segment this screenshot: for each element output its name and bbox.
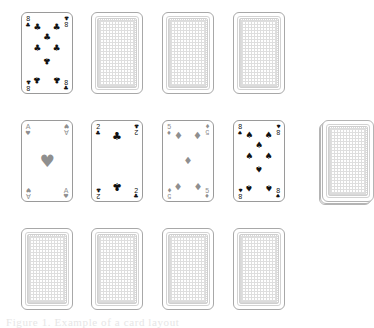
card-pip-clubs: ♣: [53, 75, 61, 84]
draw-deck[interactable]: [322, 120, 374, 202]
card-row-2-slot-3-faceup[interactable]: 5♦5♦5♦5♦♦♦♦♦♦: [162, 120, 214, 202]
card-pip-spades: ♠: [245, 130, 253, 139]
card-pip-diamonds: ♦: [193, 131, 202, 141]
card-pip-spades: ♠: [255, 163, 263, 172]
card-row-3-slot-2-facedown[interactable]: [91, 228, 143, 310]
card-pip-diamonds: ♦: [174, 131, 183, 141]
card-face: 8♠8♠8♠8♠♠♠♠♠♠♠♠♠: [234, 121, 284, 201]
card-back-pattern: [170, 20, 206, 86]
card-pip-clubs: ♣: [33, 75, 41, 84]
card-pip-spades: ♠: [245, 151, 253, 160]
card-pip-area: ♣♣♣♣♣♣♣♣: [31, 20, 63, 86]
card-pip-diamonds: ♦: [184, 156, 193, 166]
card-row-2-slot-4-faceup[interactable]: 8♠8♠8♠8♠♠♠♠♠♠♠♠♠: [233, 120, 285, 202]
card-face: 5♦5♦5♦5♦♦♦♦♦♦: [163, 121, 213, 201]
card-pip-spades: ♠: [265, 151, 273, 160]
deck-layer: [322, 120, 374, 202]
card-row-1-slot-2-facedown[interactable]: [91, 12, 143, 94]
card-pip-clubs: ♣: [43, 33, 51, 42]
card-pip-spades: ♠: [265, 183, 273, 192]
card-row-2-slot-2-faceup[interactable]: 2♣2♣2♣2♣♣♣: [91, 120, 143, 202]
card-row-1-slot-3-facedown[interactable]: [162, 12, 214, 94]
card-back-pattern: [99, 236, 135, 302]
card-back-pattern: [99, 20, 135, 86]
card-row-3-slot-4-facedown[interactable]: [233, 228, 285, 310]
card-row-3-slot-1-facedown[interactable]: [21, 228, 73, 310]
figure-caption: Figure 1. Example of a card layout: [6, 316, 306, 328]
card-pip-clubs: ♣: [43, 55, 51, 64]
card-pip-area: ♥: [31, 128, 63, 194]
card-pip-spades: ♠: [255, 141, 263, 150]
card-row-1-slot-4-facedown[interactable]: [233, 12, 285, 94]
card-face: 8♣8♣8♣8♣♣♣♣♣♣♣♣♣: [22, 13, 72, 93]
card-pip-spades: ♠: [245, 183, 253, 192]
card-pip-area: ♦♦♦♦♦: [172, 128, 204, 194]
card-row-1-slot-1-faceup[interactable]: 8♣8♣8♣8♣♣♣♣♣♣♣♣♣: [21, 12, 73, 94]
card-pip-clubs: ♣: [33, 22, 41, 31]
card-pip-clubs: ♣: [53, 43, 61, 52]
card-pip-area: ♠♠♠♠♠♠♠♠: [243, 128, 275, 194]
card-face: 2♣2♣2♣2♣♣♣: [92, 121, 142, 201]
card-pip-clubs: ♣: [33, 43, 41, 52]
card-pip-clubs: ♣: [53, 22, 61, 31]
card-pip-hearts: ♥: [39, 153, 54, 170]
card-back-pattern: [330, 128, 366, 194]
card-pip-clubs: ♣: [112, 181, 122, 192]
card-row-2-slot-1-faceup[interactable]: A♥A♥A♥A♥♥: [21, 120, 73, 202]
card-pip-diamonds: ♦: [193, 181, 202, 191]
card-back-pattern: [170, 236, 206, 302]
card-pip-area: ♣♣: [101, 128, 133, 194]
card-back-pattern: [241, 236, 277, 302]
card-back-pattern: [241, 20, 277, 86]
card-pip-clubs: ♣: [112, 130, 122, 141]
card-pip-spades: ♠: [265, 130, 273, 139]
card-face: A♥A♥A♥A♥♥: [22, 121, 72, 201]
card-back-pattern: [29, 236, 65, 302]
card-row-3-slot-3-facedown[interactable]: [162, 228, 214, 310]
card-pip-diamonds: ♦: [174, 181, 183, 191]
